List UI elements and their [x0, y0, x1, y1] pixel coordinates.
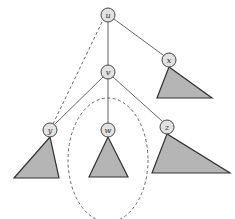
node-label-v: v: [106, 68, 111, 77]
edge-u-y-dashed: [53, 22, 102, 124]
node-u: u: [101, 8, 115, 22]
subtree-x: [157, 67, 212, 98]
subtree-z: [152, 134, 230, 173]
node-w: w: [101, 123, 115, 137]
tree-diagram: u v x y w z: [0, 0, 235, 219]
node-label-y: y: [47, 126, 53, 135]
subtree-w: [89, 137, 128, 177]
node-z: z: [160, 120, 174, 134]
node-v: v: [101, 65, 115, 79]
edge-v-z: [113, 77, 162, 121]
node-y: y: [43, 123, 57, 137]
node-label-w: w: [105, 126, 112, 135]
subtree-y: [14, 137, 59, 178]
edge-u-x: [114, 19, 163, 55]
node-x: x: [162, 53, 176, 67]
node-label-x: x: [167, 56, 172, 65]
node-label-u: u: [105, 11, 110, 20]
edge-v-y: [55, 77, 103, 124]
node-label-z: z: [164, 123, 170, 132]
